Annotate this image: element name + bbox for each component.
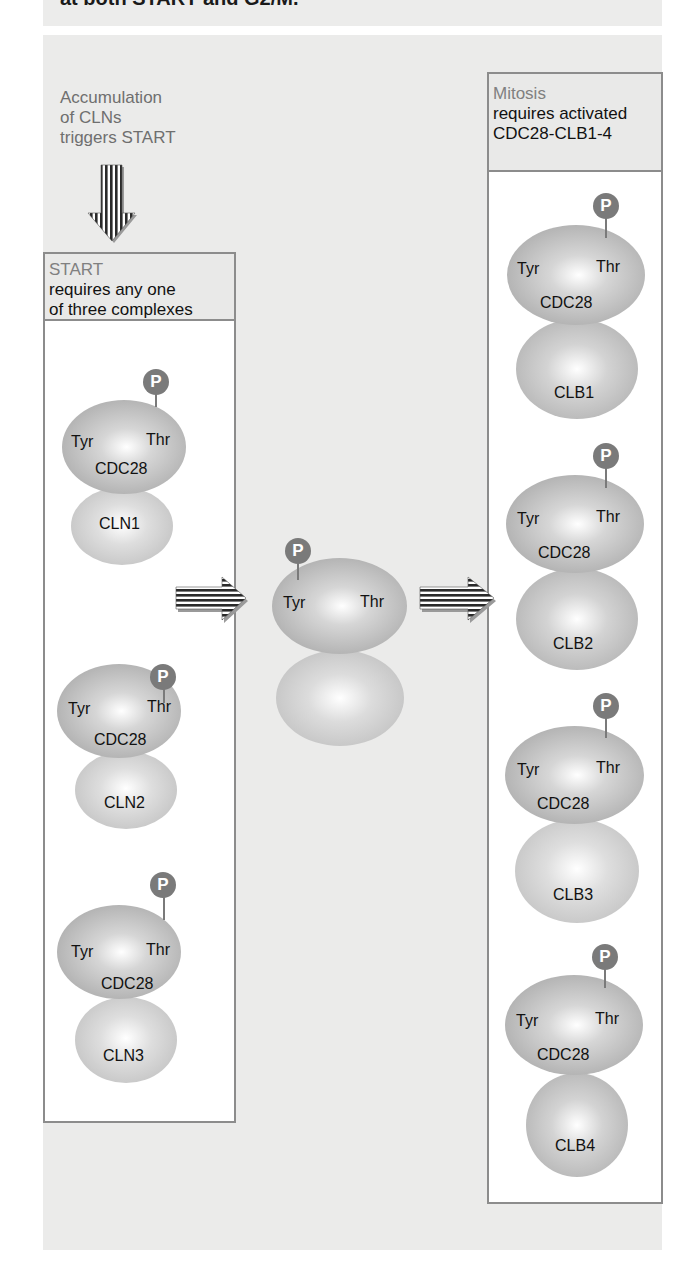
- site-left-label: Tyr: [71, 943, 93, 961]
- phospho-icon: P: [150, 872, 176, 898]
- down-arrow-icon: [80, 163, 140, 245]
- right-arrow-icon: [418, 574, 498, 626]
- cyclin-clb1: [516, 319, 638, 419]
- cyclin-label: CLN2: [104, 794, 145, 812]
- cyclin-clb3: [515, 819, 639, 923]
- cyclin-cln3: [75, 997, 177, 1083]
- site-left-label: Tyr: [71, 433, 93, 451]
- phospho-icon: P: [593, 693, 619, 719]
- right-arrow-icon: [174, 574, 250, 626]
- mitosis-box-line1: requires activated: [493, 104, 657, 124]
- kinase-label: CDC28: [101, 975, 153, 993]
- cyclin-label: CLB3: [553, 886, 593, 904]
- mitosis-box-header: Mitosis requires activated CDC28-CLB1-4: [489, 74, 661, 172]
- trigger-caption-line: Accumulation: [60, 88, 176, 108]
- site-left-label: Tyr: [517, 761, 539, 779]
- cyclin-label: CLB4: [555, 1137, 595, 1155]
- start-box-line1: requires any one: [49, 280, 230, 300]
- cyclin-label: CLN3: [103, 1047, 144, 1065]
- cyclin-clb2: [516, 568, 638, 670]
- start-box-title: START: [49, 260, 230, 280]
- site-right-label: Thr: [147, 698, 171, 716]
- phospho-icon: P: [592, 944, 618, 970]
- cyclin-clb4: [526, 1073, 628, 1177]
- trigger-caption-line: of CLNs: [60, 108, 176, 128]
- site-right-label: Thr: [146, 941, 170, 959]
- phospho-stem: [163, 897, 165, 920]
- site-left-label: Tyr: [68, 700, 90, 718]
- phospho-icon: P: [593, 443, 619, 469]
- kinase-label: CDC28: [537, 795, 589, 813]
- site-left-label: Tyr: [517, 260, 539, 278]
- kinase-label: CDC28: [538, 544, 590, 562]
- site-right-label: Thr: [596, 258, 620, 276]
- phospho-icon: P: [143, 369, 169, 395]
- kinase-label: CDC28: [537, 1046, 589, 1064]
- site-right-label: Thr: [596, 508, 620, 526]
- mitosis-box-line2: CDC28-CLB1-4: [493, 124, 657, 144]
- cyclin-label: CLB1: [554, 384, 594, 402]
- kinase-label: CDC28: [95, 460, 147, 478]
- kinase-label: CDC28: [94, 731, 146, 749]
- site-left-label: Tyr: [516, 1012, 538, 1030]
- site-right-label: Thr: [596, 759, 620, 777]
- phospho-icon: P: [150, 664, 176, 690]
- kinase-label: CDC28: [540, 294, 592, 312]
- phospho-icon: P: [593, 193, 619, 219]
- site-left-label: Tyr: [283, 594, 305, 612]
- site-left-label: Tyr: [517, 510, 539, 528]
- trigger-caption-line: triggers START: [60, 128, 176, 148]
- start-box-line2: of three complexes: [49, 300, 230, 320]
- trigger-caption: Accumulation of CLNs triggers START: [60, 88, 176, 148]
- site-right-label: Thr: [595, 1010, 619, 1028]
- cyclin-cln2: [75, 751, 177, 829]
- start-box-header: START requires any one of three complexe…: [45, 254, 234, 321]
- cyclin-label: CLB2: [553, 635, 593, 653]
- cyclin-label: CLN1: [99, 515, 140, 533]
- header-cut-off-text: at both START and G2/M.: [60, 0, 299, 10]
- mitosis-box-title: Mitosis: [493, 84, 657, 104]
- phospho-icon: P: [285, 538, 311, 564]
- site-right-label: Thr: [360, 593, 384, 611]
- site-right-label: Thr: [146, 431, 170, 449]
- cyclin-unlabeled: [276, 650, 404, 746]
